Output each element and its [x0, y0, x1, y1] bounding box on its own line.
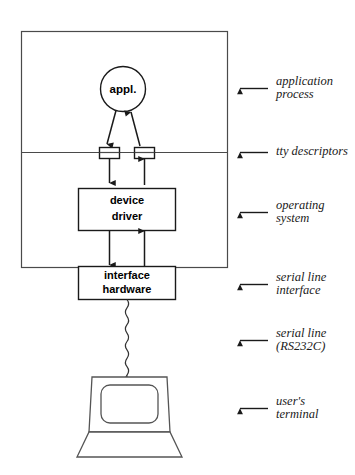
interface-hardware-box: interface hardware [79, 267, 176, 300]
interface-hardware-label-line2: hardware [103, 283, 152, 295]
interface-hardware-label-line1: interface [104, 269, 150, 281]
annotation-users-terminal-line1: user's [276, 394, 305, 408]
serial-cable [125, 300, 128, 384]
annotation-serial-line-rs232c-line1: serial line [276, 326, 327, 340]
annotation-operating-system-line1: operating [276, 198, 325, 212]
application-process-label: appl. [110, 83, 137, 95]
device-driver-box: device driver [79, 189, 176, 231]
annotation-serial-line-interface-line2: interface [276, 283, 321, 297]
annotation-application-process-line2: process [275, 87, 314, 101]
annotation-arrows [240, 89, 268, 409]
diagram-svg: appl. device driver [0, 0, 355, 475]
annotation-tty-descriptors-line1: tty descriptors [276, 144, 348, 158]
device-driver-label-line2: driver [112, 210, 143, 222]
annotation-application-process-line1: application [276, 74, 333, 88]
device-driver-label-line1: device [110, 194, 144, 206]
user-terminal-illustration [77, 377, 182, 457]
annotation-labels: application process tty descriptors oper… [275, 74, 348, 421]
annotation-operating-system-line2: system [276, 211, 309, 225]
annotation-serial-line-rs232c-line2: (RS232C) [276, 339, 325, 353]
terminal-screen [101, 385, 158, 423]
annotation-users-terminal-line2: terminal [276, 407, 319, 421]
application-process-region: appl. [101, 67, 146, 112]
annotation-serial-line-interface-line1: serial line [276, 270, 327, 284]
figure-canvas: appl. device driver [0, 0, 355, 475]
terminal-keyboard-base [77, 432, 182, 457]
